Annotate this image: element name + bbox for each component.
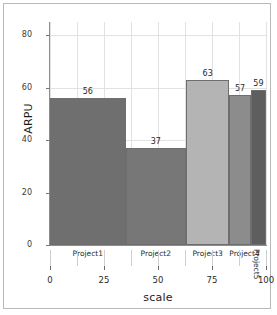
bar-value-label: 59 <box>246 79 270 88</box>
category-label-project2: Project2 <box>126 249 186 258</box>
x-tick-mark <box>104 266 105 270</box>
bar-value-label: 63 <box>196 69 220 78</box>
bar-project3[interactable] <box>186 80 229 245</box>
x-tick-mark <box>50 266 51 270</box>
category-label-project3: Project3 <box>186 249 229 258</box>
x-tick-label: 25 <box>89 275 119 285</box>
x-tick-guide-minor <box>185 250 186 266</box>
category-label-project4: Project4 <box>229 249 251 258</box>
y-tick-label: 80 <box>4 31 32 39</box>
x-tick-guide <box>104 250 105 266</box>
category-label-project1: Project1 <box>50 249 126 258</box>
x-tick-mark <box>266 266 267 270</box>
y-tick-mark <box>46 193 50 194</box>
x-tick-label: 50 <box>143 275 173 285</box>
bar-project4[interactable] <box>229 95 251 245</box>
plot-area <box>50 22 266 245</box>
x-tick-guide <box>50 250 51 266</box>
x-tick-guide-minor <box>239 250 240 266</box>
x-tick-label: 0 <box>35 275 65 285</box>
bar-value-label: 56 <box>76 87 100 96</box>
y-tick-mark <box>46 245 50 246</box>
x-tick-mark <box>158 266 159 270</box>
y-tick-label: 0 <box>4 241 32 249</box>
y-axis-title: ARPU <box>22 89 35 149</box>
x-tick-guide <box>266 250 267 266</box>
y-tick-mark <box>46 88 50 89</box>
x-tick-guide <box>212 250 213 266</box>
bar-project2[interactable] <box>126 148 186 245</box>
chart-frame: 5637635759 020406080 ARPU Project1Projec… <box>3 3 271 309</box>
x-tick-mark <box>212 266 213 270</box>
x-tick-guide-minor <box>77 250 78 266</box>
x-axis-title: scale <box>50 291 266 304</box>
y-axis-line <box>49 22 50 246</box>
x-tick-label: 75 <box>197 275 227 285</box>
y-tick-mark <box>46 35 50 36</box>
y-tick-mark <box>46 140 50 141</box>
x-axis-ruler: 0255075100 <box>50 266 266 276</box>
x-tick-guide-minor <box>131 250 132 266</box>
x-tick-label: 100 <box>251 275 277 285</box>
bar-project5[interactable] <box>251 90 266 245</box>
gridline-vertical <box>266 22 267 245</box>
y-tick-label: 20 <box>4 189 32 197</box>
x-axis-line <box>49 245 267 246</box>
bar-value-label: 37 <box>144 137 168 146</box>
bar-project1[interactable] <box>50 98 126 245</box>
x-tick-guide <box>158 250 159 266</box>
